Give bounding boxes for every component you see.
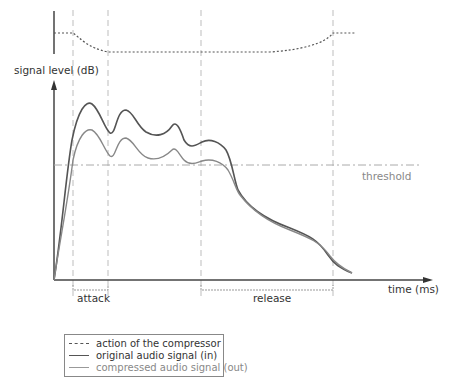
original-signal-curve: [54, 103, 352, 280]
legend-item-compressed-signal: compressed audio signal (out): [69, 361, 248, 373]
attack-bracket: [73, 285, 108, 290]
legend-item-original-signal: original audio signal (in): [69, 349, 217, 361]
threshold-label: threshold: [362, 170, 411, 182]
release-label: release: [253, 292, 291, 304]
solid-dark-line-icon: [69, 355, 89, 356]
y-axis-label: signal level (dB): [14, 64, 99, 76]
compressor-action-curve: [54, 33, 356, 52]
attack-label: attack: [77, 292, 110, 304]
y-axis-arrow-icon: [51, 80, 57, 90]
legend: action of the compressor original audio …: [64, 334, 224, 377]
legend-item-compressor-action: action of the compressor: [69, 337, 221, 349]
x-axis-label: time (ms): [388, 283, 439, 295]
compressor-diagram: [0, 0, 449, 391]
phase-guides: [73, 10, 333, 298]
dotted-line-icon: [69, 343, 89, 344]
release-bracket: [201, 285, 333, 290]
compressed-signal-curve: [54, 130, 352, 280]
solid-light-line-icon: [69, 367, 89, 368]
